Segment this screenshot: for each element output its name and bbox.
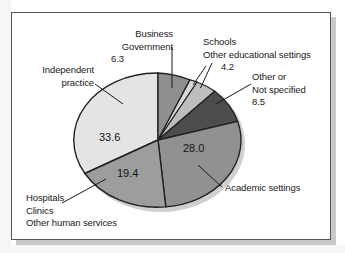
callout-business-government-line1: Business: [111, 28, 173, 41]
slice-value-hospitals-clinics: 19.4: [117, 167, 138, 179]
figure-root: Business Government 6.3 Schools Other ed…: [0, 0, 345, 253]
callout-business-government-line2: Government: [111, 41, 173, 54]
callout-other-or-not-specified: Other or Not specified 8.5: [252, 71, 328, 109]
callout-independent-practice-line1: Independent: [20, 64, 94, 77]
callout-academic-settings: Academic settings: [225, 182, 327, 195]
leader-line-other-or-not-specified: [216, 84, 251, 104]
callout-academic-settings-line1: Academic settings: [225, 182, 327, 195]
slice-value-academic-settings: 28.0: [183, 142, 204, 154]
callout-independent-practice: Independent practice: [20, 64, 94, 89]
callout-other-educational-line2: Other educational settings: [203, 49, 331, 62]
callout-business-government-value: 6.3: [111, 53, 173, 66]
callout-other-or-not-specified-line2: Not specified: [252, 84, 328, 97]
callout-other-human-services-line3: Other human services: [26, 217, 166, 230]
callout-other-or-not-specified-value: 8.5: [252, 96, 328, 109]
callout-clinics-line2: Clinics: [26, 205, 166, 218]
callout-schools-line1: Schools: [203, 36, 331, 49]
callout-schools-other-educational: Schools Other educational settings 4.2: [203, 36, 331, 74]
callout-independent-practice-line2: practice: [20, 77, 94, 90]
callout-business-government: Business Government 6.3: [111, 28, 173, 66]
callout-hospitals-line1: Hospitals: [26, 192, 166, 205]
callout-hospitals-clinics: Hospitals Clinics Other human services: [26, 192, 166, 230]
slice-value-independent-practice: 33.6: [99, 131, 120, 143]
callout-other-or-not-specified-line1: Other or: [252, 71, 328, 84]
